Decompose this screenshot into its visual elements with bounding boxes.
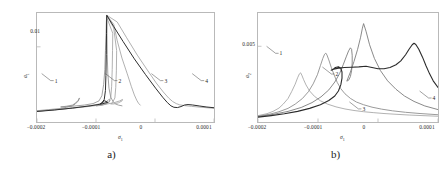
plot-frame-b: 1234 bbox=[257, 12, 439, 123]
curve-3 bbox=[37, 15, 214, 111]
panel-b: 1234 0.005 a2 −0.0002 −0.0001 0 0.0001 σ… bbox=[224, 0, 447, 172]
curve-2 bbox=[37, 15, 140, 111]
curve-annotation-1: 1 bbox=[267, 46, 283, 56]
curve-number-label: 1 bbox=[55, 78, 58, 84]
curve-annotation-4: 4 bbox=[420, 91, 436, 101]
figure-container: 1234 0.01 a1 −0.0002 −0.0001 0 0.0001 σ1… bbox=[0, 0, 447, 172]
panel-a: 1234 0.01 a1 −0.0002 −0.0001 0 0.0001 σ1… bbox=[0, 0, 223, 172]
curve-annotation-3: 3 bbox=[151, 74, 167, 84]
leader-line bbox=[151, 74, 163, 81]
plot-area-b: 1234 bbox=[258, 13, 438, 122]
y-axis-label-b-sub: 2 bbox=[247, 73, 252, 75]
curve-number-label: 2 bbox=[118, 78, 121, 84]
y-axis-label-b: a2 bbox=[244, 73, 252, 78]
x-tick-label-b-1: −0.0001 bbox=[297, 124, 329, 130]
leader-line bbox=[420, 91, 432, 98]
curve-2 bbox=[258, 53, 438, 116]
x-axis-label-a: σ1 bbox=[118, 134, 123, 142]
curve-number-label: 3 bbox=[164, 78, 167, 84]
panel-caption-b: b) bbox=[224, 148, 447, 160]
curve-number-label: 2 bbox=[335, 71, 338, 77]
leader-line bbox=[267, 46, 279, 53]
y-axis-label-a: a1 bbox=[22, 73, 30, 78]
x-tick-label-a-2: 0 bbox=[134, 124, 148, 130]
curve-4 bbox=[37, 15, 214, 111]
y-axis-label-b-text: a bbox=[244, 75, 250, 78]
curve-1 bbox=[37, 15, 122, 110]
curve-number-label: 3 bbox=[362, 106, 365, 112]
curve-annotation-4: 4 bbox=[192, 74, 208, 84]
x-tick-label-a-1: −0.0001 bbox=[75, 124, 107, 130]
plot-area-a: 1234 bbox=[37, 13, 214, 122]
curve-number-label: 1 bbox=[280, 50, 283, 56]
x-tick-label-b-3: 0.0001 bbox=[413, 124, 441, 130]
curve-number-label: 4 bbox=[205, 78, 208, 84]
x-tick-label-b-0: −0.0002 bbox=[241, 124, 273, 130]
leader-line bbox=[42, 74, 54, 81]
x-axis-label-a-sub: 1 bbox=[121, 137, 123, 142]
panel-caption-a: a) bbox=[0, 148, 223, 160]
y-axis-label-a-sub: 1 bbox=[25, 73, 30, 75]
leader-line bbox=[192, 74, 204, 81]
y-tick-label-b-0: 0.005 bbox=[229, 41, 255, 47]
x-tick-label-a-0: −0.0002 bbox=[20, 124, 52, 130]
curve-annotation-1: 1 bbox=[42, 74, 58, 84]
y-tick-label-a-0: 0.01 bbox=[16, 28, 40, 34]
x-axis-label-b-sub: 1 bbox=[343, 137, 345, 142]
x-axis-label-b: σ1 bbox=[340, 134, 345, 142]
y-axis-label-a-text: a bbox=[22, 75, 28, 78]
x-tick-label-b-2: 0 bbox=[357, 124, 371, 130]
x-tick-label-a-3: 0.0001 bbox=[190, 124, 218, 130]
plot-frame-a: 1234 bbox=[36, 12, 215, 123]
curve-number-label: 4 bbox=[433, 95, 436, 101]
